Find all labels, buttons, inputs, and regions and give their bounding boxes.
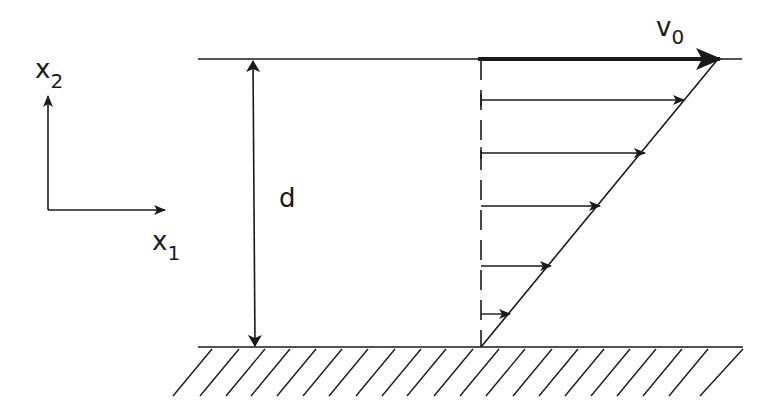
velocity-profile-line [481,59,718,347]
gap-dimension-arrow [253,61,255,346]
x2-axis-label: x2 [35,54,63,93]
velocity-arrows [481,94,684,314]
fixed-wall [173,347,743,396]
coordinate-axes: x2 x1 [35,54,180,265]
wall-hatching [173,349,743,396]
x1-axis-label: x1 [152,226,180,265]
plate-velocity-label: v0 [656,12,684,49]
gap-label: d [279,183,296,213]
couette-flow-diagram: x2 x1 v0 d [0,0,777,415]
